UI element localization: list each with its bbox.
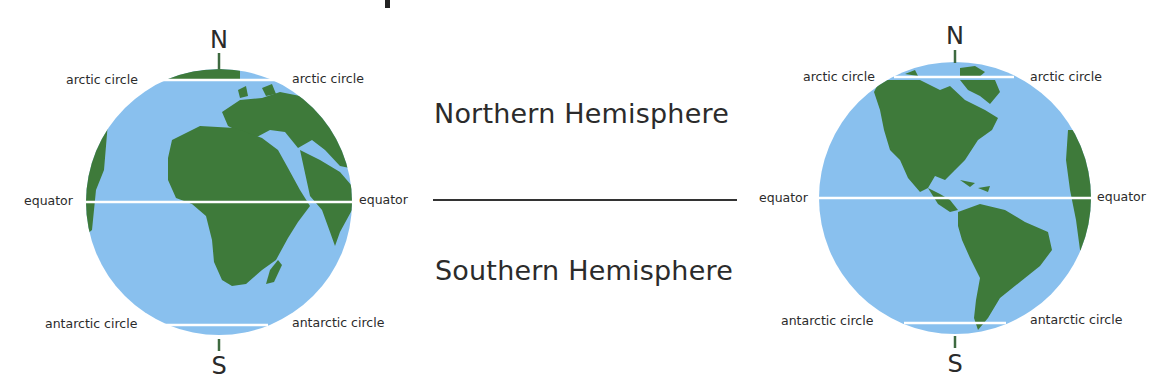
- right-antarctic-label-right: antarctic circle: [1030, 312, 1122, 327]
- right-arctic-label-left: arctic circle: [803, 69, 875, 84]
- left-arctic-label-right: arctic circle: [292, 71, 364, 86]
- equator-divider-line: [433, 199, 737, 201]
- right-arctic-label-right: arctic circle: [1030, 69, 1102, 84]
- right-equator-label-right: equator: [1097, 189, 1146, 204]
- right-north-label: N: [945, 22, 965, 50]
- left-antarctic-label-left: antarctic circle: [45, 316, 137, 331]
- left-equator-label-right: equator: [359, 192, 408, 207]
- southern-hemisphere-label: Southern Hemisphere: [435, 255, 733, 286]
- right-antarctic-label-left: antarctic circle: [781, 313, 873, 328]
- right-south-label: S: [945, 350, 965, 378]
- left-south-label: S: [209, 352, 229, 380]
- right-globe: [819, 50, 1092, 348]
- left-antarctic-label-right: antarctic circle: [292, 315, 384, 330]
- right-equator-label-left: equator: [759, 190, 808, 205]
- left-north-label: N: [209, 26, 229, 54]
- left-equator-label-left: equator: [24, 193, 73, 208]
- left-globe: [80, 53, 360, 351]
- left-arctic-label-left: arctic circle: [66, 72, 138, 87]
- globes-diagram: [0, 0, 1162, 391]
- northern-hemisphere-label: Northern Hemisphere: [434, 98, 729, 129]
